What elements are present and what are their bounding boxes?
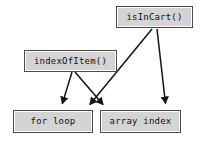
node-for-loop[interactable]: for loop xyxy=(13,110,93,133)
edge-isincart-to-array-index xyxy=(157,29,165,103)
node-array-index[interactable]: array index xyxy=(100,110,181,133)
node-array-index-label: array index xyxy=(110,117,172,126)
node-isincart-label: isInCart() xyxy=(126,12,182,21)
node-for-loop-label: for loop xyxy=(31,117,76,126)
node-indexofitem[interactable]: indexOfItem() xyxy=(24,50,117,72)
call-graph-diagram: isInCart() indexOfItem() for loop array … xyxy=(0,0,204,142)
edge-indexofitem-to-for-loop xyxy=(62,72,72,104)
edge-indexofitem-to-array-index xyxy=(75,72,103,105)
node-indexofitem-label: indexOfItem() xyxy=(34,56,107,65)
node-isincart[interactable]: isInCart() xyxy=(116,6,193,28)
